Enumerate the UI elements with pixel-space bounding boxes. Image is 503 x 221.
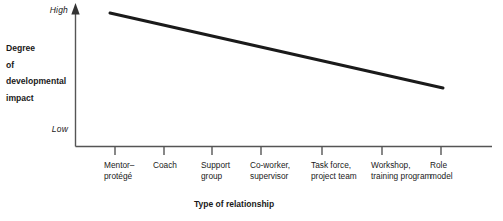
- x-tick-label-coworker-supervisor: Co-worker, supervisor: [250, 160, 290, 182]
- x-tick-label-line: training program: [371, 171, 431, 182]
- x-tick-label-task-force: Task force, project team: [311, 160, 357, 182]
- x-axis: [76, 147, 493, 156]
- x-tick-label-support-group: Support group: [201, 160, 230, 182]
- x-tick-label-line: protégé: [104, 171, 134, 182]
- x-tick-label-line: Support: [201, 160, 230, 171]
- chart-plot-area: [0, 0, 503, 221]
- developmental-impact-chart: High Low Degree of developmental impact …: [0, 0, 503, 221]
- y-axis-high-label: High: [18, 5, 68, 15]
- x-tick-label-line: Coach: [153, 160, 177, 171]
- y-axis-title-line-0: Degree: [6, 40, 78, 57]
- x-tick-label-line: Task force,: [311, 160, 357, 171]
- y-axis-arrowhead: [71, 3, 79, 15]
- y-axis-title-line-2: developmental: [6, 73, 78, 90]
- x-tick-label-line: Mentor–: [104, 160, 134, 171]
- x-axis-ticks: [115, 147, 441, 156]
- y-axis-low-label: Low: [18, 124, 68, 134]
- x-tick-label-line: Role: [430, 160, 453, 171]
- x-tick-label-line: group: [201, 171, 230, 182]
- x-axis-title: Type of relationship: [194, 199, 274, 209]
- y-axis-title: Degree of developmental impact: [6, 40, 78, 106]
- x-tick-label-role-model: Role model: [430, 160, 453, 182]
- x-tick-label-mentor-protege: Mentor– protégé: [104, 160, 134, 182]
- x-tick-label-coach: Coach: [153, 160, 177, 171]
- x-tick-label-line: project team: [311, 171, 357, 182]
- y-axis-title-line-1: of: [6, 57, 78, 74]
- x-tick-label-line: Co-worker,: [250, 160, 290, 171]
- trend-line: [110, 13, 443, 88]
- x-tick-label-line: supervisor: [250, 171, 290, 182]
- y-axis-title-line-3: impact: [6, 90, 78, 107]
- x-tick-label-workshop-training: Workshop, training program: [371, 160, 431, 182]
- x-tick-label-line: model: [430, 171, 453, 182]
- x-tick-label-line: Workshop,: [371, 160, 431, 171]
